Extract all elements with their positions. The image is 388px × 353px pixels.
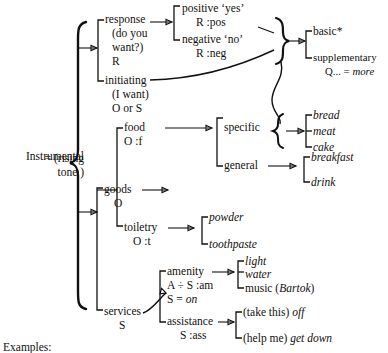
edge-goods-subtypes xyxy=(142,187,168,192)
node-response-line4: R xyxy=(112,55,120,67)
bracket-specific-general xyxy=(217,118,223,166)
bracket-food-toiletry xyxy=(117,128,123,226)
node-general: general xyxy=(224,159,258,171)
edge-specific-items xyxy=(286,128,304,133)
leaf-meat: meat xyxy=(313,125,335,137)
edge-toiletry-items xyxy=(168,225,194,230)
node-negative-line2: R :neg xyxy=(196,47,226,59)
supplementary-q-text: Q... = xyxy=(325,65,352,77)
take-this-plain: (take this) xyxy=(243,306,292,318)
edge-response-polarity xyxy=(150,19,172,24)
bracket-polarity xyxy=(174,6,180,40)
node-positive-line2: R :pos xyxy=(196,16,226,28)
node-initiating-line3: O or S xyxy=(112,102,142,114)
bracket-amenity-items xyxy=(238,261,244,288)
music-bartok-italic: Bartok xyxy=(279,282,310,294)
bracket-general-items xyxy=(304,157,310,182)
edge-root-goods xyxy=(78,209,97,214)
leaf-bread: bread xyxy=(313,109,339,121)
node-initiating-line1: initiating xyxy=(105,74,147,86)
edge-general-items xyxy=(268,163,296,168)
specific-brace xyxy=(273,114,283,148)
node-food-line2: O :f xyxy=(124,135,142,147)
edge-amenity-items xyxy=(212,269,234,274)
node-response-line3: want?) xyxy=(112,41,143,53)
amenity-on-italic: on xyxy=(186,293,198,305)
node-initiating-line2: (I want) xyxy=(112,88,149,100)
node-food-line1: food xyxy=(124,121,145,133)
node-toiletry-line2: O :t xyxy=(133,235,151,247)
node-goods-line1: goods xyxy=(104,183,131,195)
leaf-music: music (Bartok) xyxy=(245,282,314,294)
leaf-light: light xyxy=(245,255,266,267)
bracket-assistance-items xyxy=(236,312,242,338)
figure-caption: Examples: xyxy=(3,341,52,353)
node-supplementary-line2: Q... = more xyxy=(325,66,374,77)
node-assistance-line2: S :ass xyxy=(180,329,207,341)
node-specific: specific xyxy=(224,121,260,133)
leaf-take-this-off: (take this) off xyxy=(243,306,304,318)
bracket-toiletry-items xyxy=(202,217,208,244)
edge-root-response xyxy=(78,45,97,50)
amenity-s-text: S = xyxy=(167,293,186,305)
help-me-plain: (help me) xyxy=(243,332,290,344)
edge-polarity-basic xyxy=(258,27,274,33)
bracket-response-initiating xyxy=(98,20,104,81)
root-equals-line2: tone ) xyxy=(2,166,84,178)
node-goods-line2: O xyxy=(114,197,122,209)
edge-food-specificity xyxy=(165,125,212,130)
bracket-goods-services xyxy=(97,188,103,310)
root-equals-line1: = (rising xyxy=(2,152,84,164)
music-close-paren: ) xyxy=(311,282,315,294)
leaf-water: water xyxy=(245,268,271,280)
leaf-toothpaste: toothpaste xyxy=(209,238,257,250)
node-toiletry-line1: toiletry xyxy=(124,221,157,233)
node-supplementary-line1: supplementary xyxy=(313,52,377,63)
node-amenity-line1: amenity xyxy=(167,265,204,277)
node-response-line2: (do you xyxy=(112,27,147,39)
edge-assistance-items xyxy=(218,319,234,324)
help-me-get-down-italic: get down xyxy=(290,332,332,344)
music-plain-text: music ( xyxy=(245,282,279,294)
node-positive-line1: positive ‘yes’ xyxy=(182,2,244,14)
node-amenity-line2: A ÷ S :am xyxy=(167,279,213,291)
collecting-brace xyxy=(276,18,289,64)
node-assistance-line1: assistance xyxy=(167,315,213,327)
leaf-help-me-get-down: (help me) get down xyxy=(243,332,332,344)
bracket-specific-items xyxy=(306,115,312,147)
leaf-powder: powder xyxy=(209,211,244,223)
take-this-off-italic: off xyxy=(292,306,304,318)
node-amenity-line3: S = on xyxy=(167,293,197,305)
node-negative-line1: negative ‘no’ xyxy=(182,33,243,45)
node-services-line2: S xyxy=(119,319,125,331)
leaf-drink: drink xyxy=(311,176,335,188)
edge-services-subtypes xyxy=(143,288,166,313)
node-services-line1: services xyxy=(104,305,141,317)
node-basic: basic* xyxy=(313,25,342,37)
bracket-basic-supplementary xyxy=(306,31,312,58)
edge-brace-basic xyxy=(289,38,305,43)
node-response-line1: response xyxy=(105,13,145,25)
supplementary-more-italic: more xyxy=(352,65,374,77)
leaf-breakfast: breakfast xyxy=(311,151,353,163)
